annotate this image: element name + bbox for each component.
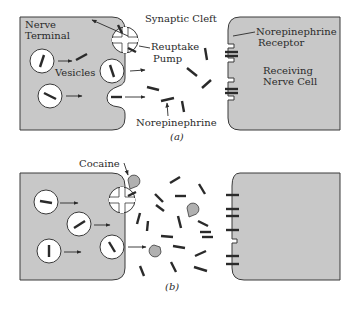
label-receptor-2: Receptor: [258, 37, 304, 48]
label-norepinephrine: Norepinephrine: [136, 117, 217, 128]
label-vesicles: Vesicles: [54, 67, 95, 78]
label-receiving-cell: Receiving: [263, 65, 313, 76]
cocaine-molecule: [128, 175, 140, 189]
label-receptor: Norepinephrine: [256, 26, 337, 37]
label-synaptic-cleft: Synaptic Cleft: [145, 13, 217, 24]
caption-a: (a): [170, 131, 184, 142]
panel-b: Cocaine (b): [20, 158, 340, 292]
cocaine-molecule: [149, 245, 161, 257]
cocaine-molecule: [187, 203, 199, 217]
label-nerve-terminal: Nerve: [25, 19, 56, 30]
panel-a: Nerve Terminal Vesicles Synaptic Cleft R…: [20, 13, 340, 142]
label-nerve-terminal-2: Terminal: [25, 30, 70, 41]
label-reuptake-pump-2: Pump: [153, 53, 182, 64]
label-cocaine: Cocaine: [79, 158, 120, 169]
label-reuptake-pump: Reuptake: [151, 41, 199, 52]
synapse-diagram: Nerve Terminal Vesicles Synaptic Cleft R…: [0, 0, 361, 309]
reuptake-pump-b: [109, 187, 135, 213]
caption-b: (b): [165, 281, 179, 292]
receiving-cell-b: [232, 173, 340, 280]
label-receiving-cell-2: Nerve Cell: [263, 76, 317, 87]
